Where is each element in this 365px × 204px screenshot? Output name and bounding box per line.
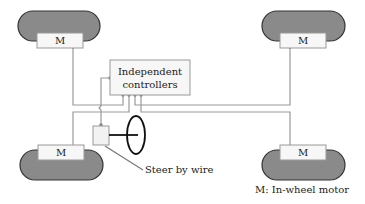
controllers-label-line1: Independent: [118, 66, 182, 77]
motors: [37, 33, 326, 160]
controllers-label-line2: controllers: [122, 79, 177, 90]
steer-actuator-box: [93, 126, 109, 145]
motor-label-fr: M: [298, 35, 308, 46]
steer-by-wire-label: Steer by wire: [145, 164, 213, 175]
motor-label-rr: M: [298, 147, 308, 158]
legend-text: M: In-wheel motor: [255, 184, 349, 195]
ev-drive-diagram: M M M M Independent controllers Steer by…: [0, 0, 365, 204]
motor-label-fl: M: [55, 35, 65, 46]
motor-label-rl: M: [56, 147, 66, 158]
